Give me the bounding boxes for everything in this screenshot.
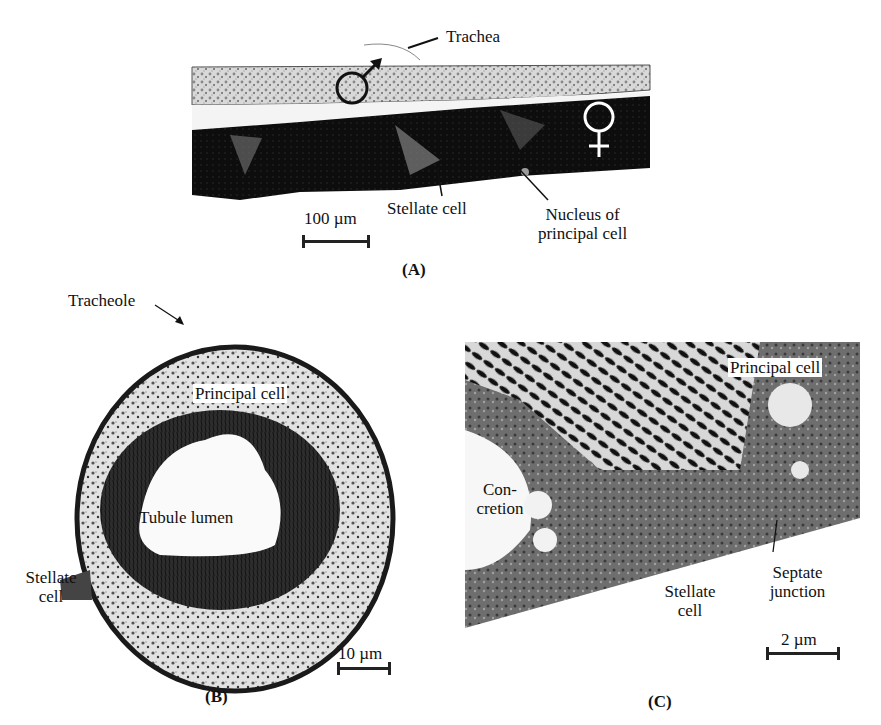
caption-c: (C) (648, 692, 672, 712)
label-stellate-cell-c: Stellate cell (645, 582, 735, 620)
scale-bar-label-c: 2 µm (781, 630, 817, 649)
scale-bar-c (766, 652, 840, 655)
label-concretion: Con- cretion (465, 480, 535, 518)
label-septate-junction: Septate junction (755, 563, 840, 601)
label-principal-cell-c: Principal cell (728, 358, 822, 377)
